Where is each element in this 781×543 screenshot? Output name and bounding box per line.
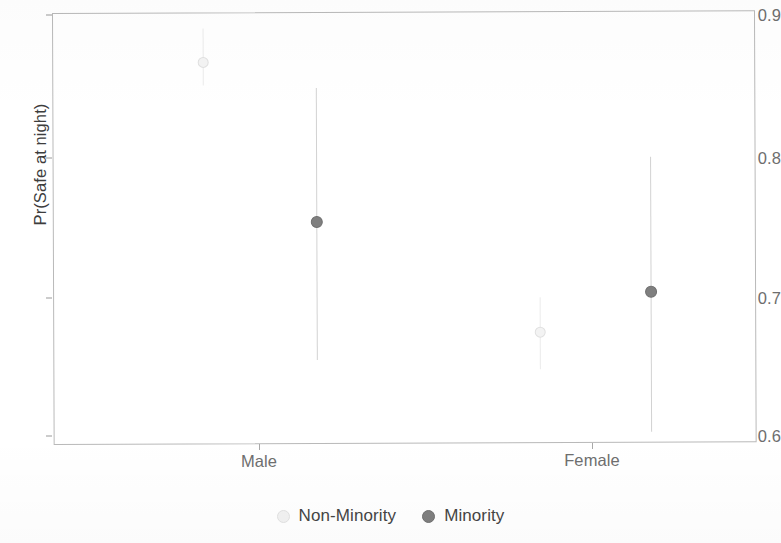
data-point-female-minority	[645, 286, 657, 298]
legend-label-minority: Minority	[444, 506, 504, 526]
legend-item-non-minority: Non-Minority	[277, 506, 397, 526]
plot-area	[53, 11, 756, 444]
x-tick-mark-female	[592, 443, 593, 449]
y-tick-mark-0.8	[46, 158, 52, 159]
legend-label-non-minority: Non-Minority	[299, 506, 397, 526]
data-point-male-minority	[311, 216, 323, 228]
data-point-male-non-minority	[198, 57, 209, 68]
x-tick-label-male: Male	[241, 452, 277, 471]
y-tick-mark-0.6	[46, 436, 52, 437]
circle-marker-light-icon	[277, 510, 290, 523]
x-tick-label-female: Female	[564, 451, 620, 470]
legend-item-minority: Minority	[422, 506, 504, 526]
y-tick-mark-0.7	[46, 298, 52, 299]
circle-marker-dark-icon	[422, 510, 435, 523]
chart-legend: Non-Minority Minority	[0, 506, 781, 526]
y-axis-title: Pr(Safe at night)	[31, 55, 50, 275]
data-point-female-non-minority	[535, 327, 546, 338]
plot-panel	[52, 10, 757, 445]
x-tick-mark-male	[259, 444, 260, 450]
chart-figure: Pr(Safe at night) 0.9 0.8 0.7 0.6 Male F…	[0, 0, 781, 543]
